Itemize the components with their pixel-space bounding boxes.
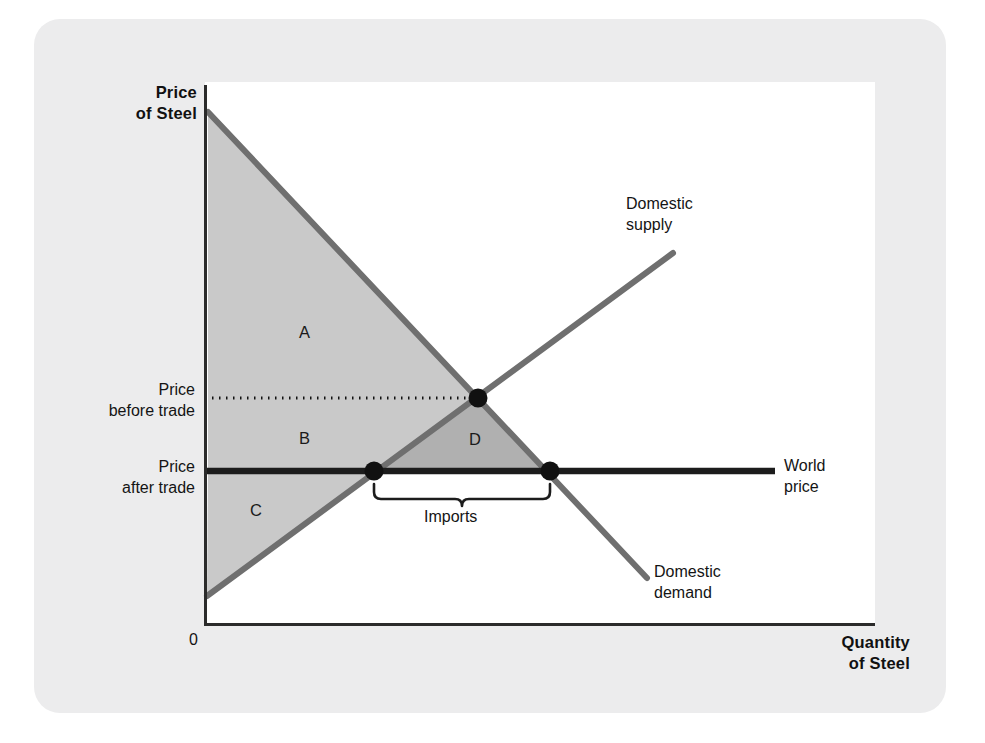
price-before-trade-label: Price before trade <box>20 380 195 422</box>
domestic-demand-label-line2: demand <box>654 582 804 603</box>
world-price-label-line2: price <box>784 476 894 497</box>
domestic-demand-label-line1: Domestic <box>654 561 804 582</box>
x-axis-title-line2: of Steel <box>760 653 910 674</box>
y-axis-title-line1: Price <box>85 82 197 103</box>
price-after-trade-label-line2: after trade <box>20 478 195 499</box>
domestic-demand-label: Domestic demand <box>654 561 804 603</box>
y-axis-title-line2: of Steel <box>85 103 197 124</box>
y-axis-title: Price of Steel <box>85 82 197 124</box>
domestic-supply-label-line1: Domestic <box>626 193 776 214</box>
world-price-label: World price <box>784 455 894 497</box>
domestic-supply-label: Domestic supply <box>626 193 776 235</box>
domestic-supply-point-after-trade <box>365 462 384 481</box>
region-label-a: A <box>299 323 310 342</box>
price-after-trade-label-line1: Price <box>20 457 195 478</box>
equilibrium-point-before-trade <box>469 389 488 408</box>
x-axis-title-line1: Quantity <box>760 632 910 653</box>
price-before-trade-label-line1: Price <box>20 380 195 401</box>
imports-label: Imports <box>424 508 477 526</box>
region-label-d: D <box>469 430 481 449</box>
origin-label: 0 <box>189 631 198 649</box>
world-price-label-line1: World <box>784 455 894 476</box>
region-label-c: C <box>250 501 262 520</box>
domestic-supply-label-line2: supply <box>626 214 776 235</box>
x-axis-title: Quantity of Steel <box>760 632 910 674</box>
region-label-b: B <box>299 429 310 448</box>
domestic-demand-point-after-trade <box>541 462 560 481</box>
price-before-trade-label-line2: before trade <box>20 401 195 422</box>
price-after-trade-label: Price after trade <box>20 457 195 499</box>
